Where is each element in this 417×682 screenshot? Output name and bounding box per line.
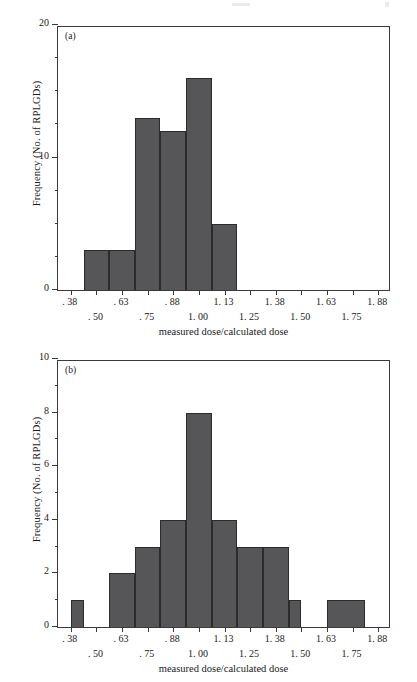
x-tick: [148, 290, 149, 295]
y-tick-label: 0: [44, 282, 49, 293]
x-tick: [378, 290, 379, 295]
x-tick-label: 1. 38: [265, 633, 285, 644]
x-tick: [225, 290, 226, 295]
y-tick-minor: [55, 599, 59, 600]
y-tick-label: 20: [39, 17, 49, 28]
x-tick-label: 1. 50: [290, 648, 310, 659]
histogram-bar: [212, 520, 238, 627]
histogram-bar: [186, 78, 212, 290]
x-tick-label: 1. 13: [214, 296, 234, 307]
x-tick: [199, 290, 200, 295]
y-tick-label: 2: [44, 565, 49, 576]
x-tick-label: . 50: [88, 311, 103, 322]
x-tick-label: . 63: [114, 633, 129, 644]
x-tick: [250, 627, 251, 632]
x-tick: [353, 290, 354, 295]
y-tick-minor: [55, 546, 59, 547]
y-tick: 10: [52, 157, 58, 158]
x-tick: [301, 290, 302, 295]
histogram-bar: [186, 413, 212, 627]
y-tick-label: 6: [44, 458, 49, 469]
histogram-bar: [212, 224, 238, 290]
histogram-panel-a: Frequency (No. of RPLGDs) (a) 01020 . 38…: [0, 8, 417, 338]
y-tick-minor: [55, 438, 59, 439]
x-tick-label: 1. 00: [188, 311, 208, 322]
x-tick: [173, 290, 174, 295]
y-tick-minor: [55, 90, 59, 91]
histogram-bar: [135, 118, 161, 290]
histogram-bar: [84, 250, 110, 290]
x-tick: [250, 290, 251, 295]
x-tick: [276, 290, 277, 295]
x-tick-label: 1. 25: [239, 648, 259, 659]
x-tick-label: . 38: [62, 633, 77, 644]
x-tick-label: 1. 13: [214, 633, 234, 644]
x-tick-label: . 38: [62, 296, 77, 307]
histogram-bar: [109, 573, 135, 627]
x-tick: [276, 627, 277, 632]
histogram-bar: [237, 547, 263, 627]
x-tick-label: . 50: [88, 648, 103, 659]
x-tick: [71, 627, 72, 632]
y-tick: 0: [52, 626, 58, 627]
x-axis-title-b: measured dose/calculated dose: [57, 663, 390, 674]
histogram-bar: [71, 600, 84, 627]
y-tick-minor: [55, 492, 59, 493]
histogram-bar: [160, 520, 186, 627]
y-tick: 10: [52, 358, 58, 359]
histogram-bar: [109, 250, 135, 290]
x-tick: [122, 627, 123, 632]
y-tick-minor: [55, 223, 59, 224]
x-tick: [327, 627, 328, 632]
x-tick-label: 1. 88: [367, 633, 387, 644]
y-tick-label: 10: [39, 351, 49, 362]
x-tick: [301, 627, 302, 632]
x-tick-label: 1. 63: [316, 633, 336, 644]
y-tick-label: 0: [44, 619, 49, 630]
x-tick-label: . 75: [139, 311, 154, 322]
x-tick: [225, 627, 226, 632]
y-axis-title-b: Frequency (No. of RPLGDs): [31, 370, 42, 590]
histogram-bar: [160, 131, 186, 290]
x-tick: [199, 627, 200, 632]
y-tick-minor: [55, 57, 59, 58]
x-tick: [71, 290, 72, 295]
x-tick: [96, 290, 97, 295]
x-tick-label: . 88: [165, 296, 180, 307]
x-tick-label: . 88: [165, 633, 180, 644]
x-tick-label: 1. 38: [265, 296, 285, 307]
histogram-panel-b: Frequency (No. of RPLGDs) (b) 0246810 . …: [0, 342, 417, 677]
y-tick: 20: [52, 24, 58, 25]
y-tick-label: 4: [44, 512, 49, 523]
bars-group-a: [58, 27, 389, 290]
x-tick-label: 1. 75: [342, 648, 362, 659]
y-tick: 2: [52, 572, 58, 573]
histogram-bar: [135, 547, 161, 627]
x-tick: [173, 627, 174, 632]
x-tick-label: 1. 00: [188, 648, 208, 659]
x-tick-label: . 63: [114, 296, 129, 307]
histogram-bar: [289, 600, 302, 627]
x-tick-label: 1. 50: [290, 311, 310, 322]
x-tick: [96, 627, 97, 632]
bars-group-b: [58, 361, 389, 627]
x-tick: [327, 290, 328, 295]
y-tick: 8: [52, 412, 58, 413]
x-tick-label: 1. 88: [367, 296, 387, 307]
figure-page: Frequency (No. of RPLGDs) (a) 01020 . 38…: [0, 0, 417, 682]
scan-artifact: [385, 2, 389, 7]
plot-area-b: (b) 0246810: [57, 360, 390, 628]
x-tick: [378, 627, 379, 632]
x-tick: [353, 627, 354, 632]
y-tick-minor: [55, 190, 59, 191]
plot-area-a: (a) 01020: [57, 26, 390, 291]
x-tick: [148, 627, 149, 632]
x-tick: [122, 290, 123, 295]
y-tick-label: 10: [39, 150, 49, 161]
x-tick-label: 1. 75: [342, 311, 362, 322]
y-tick-minor: [55, 385, 59, 386]
scan-artifact: [232, 3, 250, 6]
histogram-bar: [263, 547, 289, 627]
y-tick-minor: [55, 123, 59, 124]
y-tick: 0: [52, 289, 58, 290]
